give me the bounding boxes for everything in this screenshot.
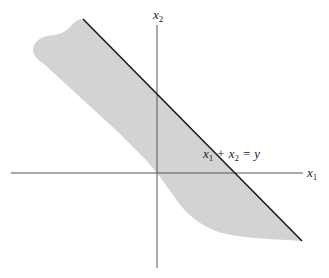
diagram-canvas: x2 x1 x1+x2=y (0, 0, 329, 278)
x1-axis-label: x1 (306, 165, 317, 182)
shaded-region (33, 19, 302, 241)
x2-axis-label: x2 (152, 7, 163, 24)
